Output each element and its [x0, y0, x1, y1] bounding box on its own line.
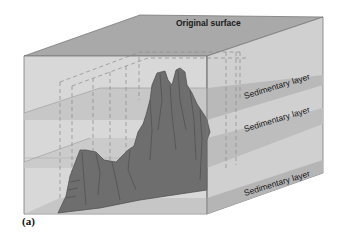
- erosion-block-diagram: Original surface Sedimentary layer Sedim…: [0, 0, 342, 233]
- label-original-surface: Original surface: [176, 18, 241, 28]
- figure-caption: (a): [22, 215, 35, 227]
